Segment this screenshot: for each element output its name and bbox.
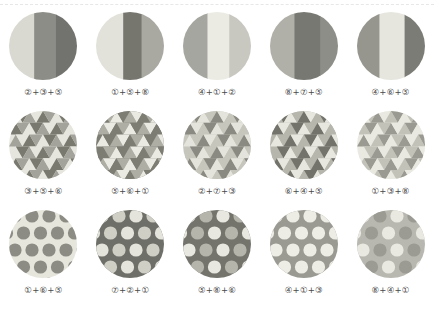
swatch-cell[interactable]: ④+①+③ [260,210,347,309]
swatch-row: ①+⑥+⑤⑦+②+①⑤+⑧+⑥④+①+③⑧+④+① [0,210,434,309]
pattern-disc-vertical-stripes[interactable] [183,12,251,80]
swatch-cell[interactable]: ②+⑦+③ [174,111,261,210]
pattern-disc-vertical-stripes[interactable] [96,12,164,80]
pattern-disc-triangles[interactable] [270,111,338,179]
swatch-label: ③+⑤+⑥ [24,186,62,196]
swatch-row: ③+⑤+⑥⑤+⑥+①②+⑦+③⑥+④+⑤①+③+⑧ [0,111,434,210]
pattern-disc-triangles[interactable] [96,111,164,179]
swatch-cell[interactable]: ⑥+④+⑤ [260,111,347,210]
swatch-label: ⑧+④+① [372,285,410,295]
swatch-grid: ②+③+⑤①+⑤+⑧④+①+②⑧+⑦+⑤④+⑥+⑤③+⑤+⑥⑤+⑥+①②+⑦+③… [0,12,434,309]
swatch-cell[interactable]: ③+⑤+⑥ [0,111,87,210]
swatch-label: ②+③+⑤ [24,87,62,97]
swatch-cell[interactable]: ①+③+⑧ [347,111,434,210]
swatch-label: ④+①+② [198,87,236,97]
pattern-disc-triangles[interactable] [183,111,251,179]
swatch-label: ④+⑥+⑤ [372,87,410,97]
swatch-row: ②+③+⑤①+⑤+⑧④+①+②⑧+⑦+⑤④+⑥+⑤ [0,12,434,111]
swatch-cell[interactable]: ①+⑥+⑤ [0,210,87,309]
swatch-label: ④+①+③ [285,285,323,295]
swatch-cell[interactable]: ⑦+②+① [87,210,174,309]
top-dashed-divider [0,4,434,6]
swatch-label: ⑤+⑧+⑥ [198,285,236,295]
swatch-label: ⑤+⑥+① [111,186,149,196]
swatch-label: ①+③+⑧ [372,186,410,196]
pattern-disc-vertical-stripes[interactable] [357,12,425,80]
swatch-cell[interactable]: ①+⑤+⑧ [87,12,174,111]
pattern-disc-vertical-stripes[interactable] [270,12,338,80]
swatch-cell[interactable]: ④+⑥+⑤ [347,12,434,111]
swatch-label: ②+⑦+③ [198,186,236,196]
swatch-label: ⑧+⑦+⑤ [285,87,323,97]
swatch-cell[interactable]: ④+①+② [174,12,261,111]
pattern-disc-vertical-stripes[interactable] [9,12,77,80]
swatch-label: ⑥+④+⑤ [285,186,323,196]
swatch-cell[interactable]: ⑤+⑥+① [87,111,174,210]
pattern-disc-polka-dots[interactable] [183,210,251,278]
swatch-label: ①+⑤+⑧ [111,87,149,97]
pattern-disc-triangles[interactable] [357,111,425,179]
pattern-swatch-sheet: ②+③+⑤①+⑤+⑧④+①+②⑧+⑦+⑤④+⑥+⑤③+⑤+⑥⑤+⑥+①②+⑦+③… [0,0,434,309]
pattern-disc-triangles[interactable] [9,111,77,179]
swatch-cell[interactable]: ②+③+⑤ [0,12,87,111]
swatch-cell[interactable]: ⑧+⑦+⑤ [260,12,347,111]
swatch-cell[interactable]: ⑤+⑧+⑥ [174,210,261,309]
swatch-cell[interactable]: ⑧+④+① [347,210,434,309]
pattern-disc-polka-dots[interactable] [96,210,164,278]
swatch-label: ⑦+②+① [111,285,149,295]
pattern-disc-polka-dots[interactable] [9,210,77,278]
pattern-disc-polka-dots[interactable] [357,210,425,278]
pattern-disc-polka-dots[interactable] [270,210,338,278]
swatch-label: ①+⑥+⑤ [24,285,62,295]
